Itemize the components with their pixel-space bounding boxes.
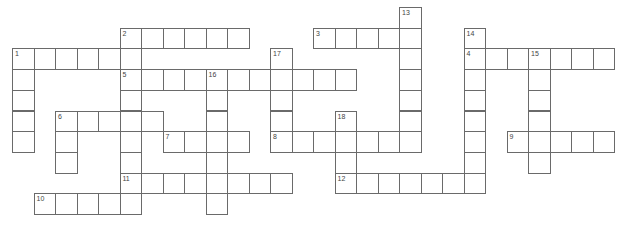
crossword-cell[interactable]: 3 [313, 28, 336, 50]
crossword-cell[interactable]: 10 [34, 193, 57, 215]
crossword-cell[interactable] [227, 69, 250, 91]
crossword-cell[interactable] [270, 90, 293, 112]
crossword-cell[interactable] [378, 28, 401, 50]
crossword-cell[interactable] [120, 111, 143, 133]
crossword-cell[interactable] [528, 69, 551, 91]
crossword-cell[interactable] [55, 193, 78, 215]
crossword-cell[interactable]: 13 [399, 7, 422, 29]
crossword-cell[interactable] [55, 131, 78, 153]
crossword-cell[interactable] [77, 48, 100, 70]
crossword-cell[interactable] [528, 131, 551, 153]
crossword-cell[interactable] [335, 28, 358, 50]
crossword-cell[interactable] [184, 131, 207, 153]
crossword-cell[interactable]: 16 [206, 69, 229, 91]
crossword-cell[interactable] [335, 152, 358, 174]
crossword-cell[interactable] [356, 173, 379, 195]
crossword-cell[interactable] [206, 28, 229, 50]
crossword-cell[interactable] [378, 173, 401, 195]
crossword-cell[interactable] [593, 131, 616, 153]
crossword-cell[interactable] [120, 90, 143, 112]
crossword-cell[interactable] [141, 28, 164, 50]
crossword-cell[interactable] [77, 193, 100, 215]
crossword-cell[interactable] [399, 111, 422, 133]
crossword-cell[interactable] [206, 131, 229, 153]
crossword-cell[interactable]: 18 [335, 111, 358, 133]
crossword-cell[interactable] [593, 48, 616, 70]
crossword-cell[interactable] [98, 48, 121, 70]
crossword-cell[interactable]: 7 [163, 131, 186, 153]
crossword-cell[interactable] [507, 48, 530, 70]
crossword-cell[interactable]: 2 [120, 28, 143, 50]
crossword-cell[interactable]: 6 [55, 111, 78, 133]
crossword-cell[interactable] [206, 90, 229, 112]
crossword-cell[interactable] [378, 131, 401, 153]
crossword-cell[interactable] [270, 69, 293, 91]
crossword-cell[interactable] [184, 28, 207, 50]
crossword-cell[interactable] [227, 131, 250, 153]
crossword-cell[interactable] [98, 111, 121, 133]
crossword-cell[interactable] [184, 173, 207, 195]
crossword-cell[interactable] [98, 193, 121, 215]
crossword-cell[interactable] [571, 48, 594, 70]
crossword-cell[interactable] [292, 69, 315, 91]
crossword-cell[interactable] [141, 173, 164, 195]
crossword-cell[interactable] [249, 173, 272, 195]
crossword-cell[interactable] [120, 193, 143, 215]
crossword-cell[interactable] [464, 90, 487, 112]
crossword-cell[interactable] [356, 131, 379, 153]
crossword-cell[interactable] [313, 69, 336, 91]
crossword-cell[interactable] [464, 131, 487, 153]
crossword-cell[interactable] [206, 193, 229, 215]
crossword-cell[interactable] [464, 152, 487, 174]
crossword-cell[interactable] [292, 131, 315, 153]
crossword-cell[interactable] [571, 131, 594, 153]
crossword-cell[interactable] [184, 69, 207, 91]
crossword-cell[interactable] [356, 28, 379, 50]
crossword-cell[interactable]: 1 [12, 48, 35, 70]
crossword-cell[interactable] [206, 152, 229, 174]
crossword-cell[interactable] [206, 173, 229, 195]
crossword-cell[interactable] [399, 131, 422, 153]
crossword-cell[interactable] [120, 48, 143, 70]
crossword-cell[interactable] [335, 69, 358, 91]
crossword-cell[interactable] [12, 69, 35, 91]
crossword-cell[interactable] [141, 111, 164, 133]
crossword-cell[interactable]: 8 [270, 131, 293, 153]
crossword-cell[interactable] [12, 90, 35, 112]
crossword-cell[interactable] [55, 48, 78, 70]
crossword-cell[interactable] [464, 69, 487, 91]
crossword-cell[interactable] [464, 111, 487, 133]
crossword-cell[interactable] [77, 111, 100, 133]
crossword-cell[interactable] [227, 173, 250, 195]
crossword-cell[interactable] [528, 152, 551, 174]
crossword-cell[interactable] [550, 48, 573, 70]
crossword-cell[interactable] [421, 173, 444, 195]
crossword-cell[interactable] [399, 90, 422, 112]
crossword-cell[interactable] [141, 69, 164, 91]
crossword-cell[interactable] [270, 111, 293, 133]
crossword-cell[interactable] [313, 131, 336, 153]
crossword-cell[interactable]: 17 [270, 48, 293, 70]
crossword-cell[interactable] [485, 48, 508, 70]
crossword-cell[interactable] [12, 131, 35, 153]
crossword-cell[interactable] [163, 69, 186, 91]
crossword-cell[interactable] [227, 28, 250, 50]
crossword-cell[interactable] [399, 173, 422, 195]
crossword-cell[interactable] [163, 173, 186, 195]
crossword-cell[interactable] [464, 173, 487, 195]
crossword-cell[interactable] [528, 111, 551, 133]
crossword-cell[interactable] [399, 69, 422, 91]
crossword-cell[interactable] [270, 173, 293, 195]
crossword-cell[interactable]: 15 [528, 48, 551, 70]
crossword-cell[interactable]: 9 [507, 131, 530, 153]
crossword-cell[interactable] [550, 131, 573, 153]
crossword-cell[interactable] [34, 48, 57, 70]
crossword-cell[interactable] [163, 28, 186, 50]
crossword-cell[interactable]: 12 [335, 173, 358, 195]
crossword-cell[interactable] [335, 131, 358, 153]
crossword-cell[interactable] [399, 28, 422, 50]
crossword-cell[interactable]: 11 [120, 173, 143, 195]
crossword-cell[interactable] [442, 173, 465, 195]
crossword-cell[interactable] [120, 131, 143, 153]
crossword-cell[interactable] [120, 152, 143, 174]
